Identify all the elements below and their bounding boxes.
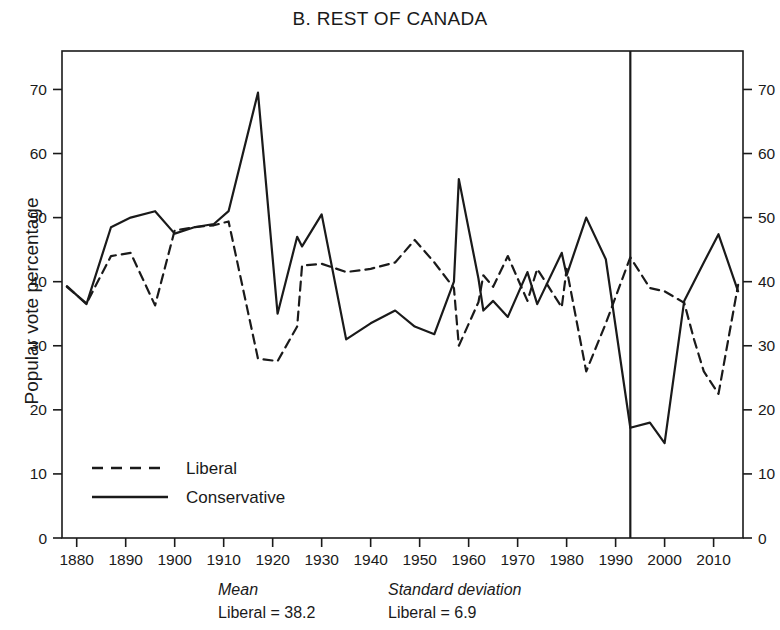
y-tick-label: 0 bbox=[38, 530, 47, 547]
y-tick-label-right: 20 bbox=[758, 401, 776, 418]
y-tick-label: 40 bbox=[30, 273, 48, 290]
x-tick-label: 1940 bbox=[353, 551, 388, 568]
y-tick-label: 70 bbox=[30, 81, 48, 98]
y-tick-label-right: 40 bbox=[758, 273, 776, 290]
chart-legend: Liberal Conservative bbox=[92, 459, 285, 507]
legend-label-liberal: Liberal bbox=[186, 459, 237, 478]
y-axis-right-ticks: 010203040506070 bbox=[743, 81, 776, 547]
y-tick-label-right: 60 bbox=[758, 145, 776, 162]
x-tick-label: 1960 bbox=[451, 551, 486, 568]
x-tick-label: 1890 bbox=[108, 551, 143, 568]
x-tick-label: 1970 bbox=[500, 551, 535, 568]
y-axis-left-ticks: 010203040506070 bbox=[30, 81, 62, 547]
y-tick-label: 30 bbox=[30, 337, 48, 354]
stats-sd-header: Standard deviation bbox=[388, 578, 521, 601]
series-line-liberal bbox=[67, 221, 738, 393]
plot-frame bbox=[62, 51, 743, 538]
x-tick-label: 1880 bbox=[59, 551, 94, 568]
y-tick-label-right: 0 bbox=[758, 530, 767, 547]
stats-mean-header: Mean bbox=[218, 578, 315, 601]
x-tick-label: 2000 bbox=[647, 551, 682, 568]
y-tick-label-right: 30 bbox=[758, 337, 776, 354]
x-tick-label: 1930 bbox=[304, 551, 339, 568]
x-tick-label: 1990 bbox=[598, 551, 633, 568]
y-tick-label: 20 bbox=[30, 401, 48, 418]
x-tick-label: 1980 bbox=[549, 551, 584, 568]
x-tick-label: 2010 bbox=[696, 551, 731, 568]
stats-sd-block: Standard deviation Liberal = 6.9 bbox=[388, 578, 521, 624]
line-chart-plot: 010203040506070 010203040506070 18801890… bbox=[0, 0, 780, 630]
legend-label-conservative: Conservative bbox=[186, 488, 285, 507]
data-series-layer bbox=[67, 93, 738, 444]
stats-mean-block: Mean Liberal = 38.2 bbox=[218, 578, 315, 624]
stats-sd-liberal: Liberal = 6.9 bbox=[388, 601, 521, 624]
y-tick-label: 60 bbox=[30, 145, 48, 162]
x-tick-label: 1950 bbox=[402, 551, 437, 568]
figure-panel: B. REST OF CANADA Popular vote percentag… bbox=[0, 0, 780, 630]
stats-mean-liberal: Liberal = 38.2 bbox=[218, 601, 315, 624]
y-tick-label: 50 bbox=[30, 209, 48, 226]
x-axis-ticks: 1880189019001910192019301940195019601970… bbox=[59, 538, 731, 568]
x-tick-label: 1920 bbox=[255, 551, 290, 568]
y-tick-label-right: 50 bbox=[758, 209, 776, 226]
y-tick-label-right: 70 bbox=[758, 81, 776, 98]
y-tick-label-right: 10 bbox=[758, 465, 776, 482]
x-tick-label: 1900 bbox=[157, 551, 192, 568]
y-tick-label: 10 bbox=[30, 465, 48, 482]
x-tick-label: 1910 bbox=[206, 551, 241, 568]
